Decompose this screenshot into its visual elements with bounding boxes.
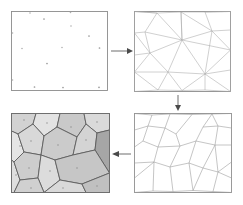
figure-canvas xyxy=(0,0,243,205)
seed-point xyxy=(21,48,23,50)
seed-point xyxy=(85,139,86,140)
seed-point xyxy=(30,140,31,141)
seed-point xyxy=(62,187,63,188)
seed-point xyxy=(34,86,36,88)
seed-point xyxy=(12,79,14,81)
seed-point xyxy=(15,174,16,175)
seed-point xyxy=(76,167,77,168)
seed-point xyxy=(46,63,48,65)
arrow-head-icon xyxy=(175,105,181,111)
seed-point xyxy=(29,12,31,14)
seed-point xyxy=(96,121,97,122)
voronoi-cell-group xyxy=(12,114,110,193)
arrow-head-icon xyxy=(112,151,119,157)
seed-point xyxy=(88,35,90,37)
seed-point xyxy=(70,126,71,127)
seed-point xyxy=(12,32,14,34)
seed-point xyxy=(98,86,100,88)
arrow-voronoi-to-filled xyxy=(112,151,131,157)
seed-point xyxy=(23,119,24,120)
seed-point xyxy=(57,144,58,145)
panel-voronoi-filled xyxy=(12,114,110,193)
seed-point xyxy=(46,122,47,123)
panel-voronoi-edges xyxy=(135,114,232,193)
panel-delaunay xyxy=(135,12,231,92)
arrow-seed-to-delaunay xyxy=(111,48,133,54)
seed-point xyxy=(96,185,97,186)
panel-seed-points-frame xyxy=(12,12,108,91)
seed-point xyxy=(30,187,31,188)
seed-point xyxy=(70,25,72,27)
arrow-delaunay-to-voronoi xyxy=(175,95,181,111)
seed-point xyxy=(28,167,29,168)
seed-point xyxy=(19,145,20,146)
seed-point xyxy=(70,12,72,14)
seed-point xyxy=(62,87,64,89)
seed-point xyxy=(61,47,63,49)
seed-point xyxy=(43,18,45,20)
seed-point xyxy=(49,170,50,171)
panel-seed-points xyxy=(12,12,108,91)
arrow-head-icon xyxy=(127,48,133,54)
seed-point xyxy=(99,47,101,49)
